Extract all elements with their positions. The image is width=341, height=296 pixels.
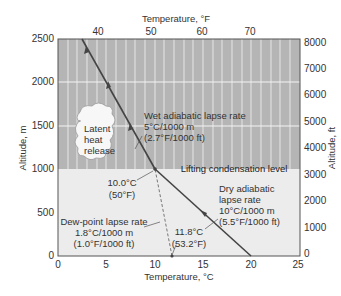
svg-text:70: 70 xyxy=(244,26,256,37)
svg-text:0: 0 xyxy=(304,248,310,259)
svg-text:1000: 1000 xyxy=(304,222,327,233)
svg-text:4000: 4000 xyxy=(304,142,327,153)
svg-text:0: 0 xyxy=(48,250,54,261)
svg-text:1.8°C/1000 m: 1.8°C/1000 m xyxy=(75,227,133,238)
svg-text:60: 60 xyxy=(196,26,208,37)
y-axis-label: Altitude, m xyxy=(17,125,28,170)
svg-text:(50°F): (50°F) xyxy=(109,189,136,200)
svg-text:11.8°C: 11.8°C xyxy=(175,226,204,237)
svg-text:1500: 1500 xyxy=(32,120,55,131)
svg-text:5°C/1000 m: 5°C/1000 m xyxy=(144,121,194,132)
svg-text:heat: heat xyxy=(84,134,103,145)
svg-text:20: 20 xyxy=(245,259,257,270)
dew-surface-label: 11.8°C (53.2°F) xyxy=(172,226,206,249)
svg-text:2000: 2000 xyxy=(32,76,55,87)
svg-text:release: release xyxy=(84,145,115,156)
x-axis-bottom: 0 5 10 15 20 25 xyxy=(55,259,304,270)
svg-text:40: 40 xyxy=(92,26,104,37)
svg-text:2000: 2000 xyxy=(304,195,327,206)
lcl-label: Lifting condensation level xyxy=(181,163,288,174)
x-axis-top: 40 50 60 70 xyxy=(92,26,256,37)
svg-text:Dew-point lapse rate: Dew-point lapse rate xyxy=(60,216,147,227)
svg-text:2500: 2500 xyxy=(32,33,55,44)
svg-text:(1.0°F/1000 ft): (1.0°F/1000 ft) xyxy=(74,238,135,249)
svg-text:Dry adiabatic: Dry adiabatic xyxy=(219,183,275,194)
svg-text:10: 10 xyxy=(149,259,161,270)
x2-axis-label: Temperature, °F xyxy=(142,13,210,24)
svg-text:8000: 8000 xyxy=(304,37,327,48)
svg-text:15: 15 xyxy=(197,259,209,270)
svg-text:5: 5 xyxy=(103,259,109,270)
svg-text:(53.2°F): (53.2°F) xyxy=(172,238,206,249)
svg-text:500: 500 xyxy=(37,207,54,218)
svg-text:1000: 1000 xyxy=(32,163,55,174)
y-axis-left: 0 500 1000 1500 2000 2500 xyxy=(32,33,55,261)
svg-text:3000: 3000 xyxy=(304,169,327,180)
svg-text:25: 25 xyxy=(292,259,304,270)
svg-text:Wet adiabatic lapse rate: Wet adiabatic lapse rate xyxy=(144,110,246,121)
svg-text:5000: 5000 xyxy=(304,116,327,127)
svg-text:0: 0 xyxy=(55,259,61,270)
svg-text:6000: 6000 xyxy=(304,89,327,100)
svg-text:(2.7°F/1000 ft): (2.7°F/1000 ft) xyxy=(144,132,205,143)
svg-text:Latent: Latent xyxy=(84,123,111,134)
svg-text:(5.5°F/1000 ft): (5.5°F/1000 ft) xyxy=(219,216,280,227)
svg-text:lapse rate: lapse rate xyxy=(219,194,261,205)
lapse-rate-chart: 0 500 1000 1500 2000 2500 Altitude, m 0 … xyxy=(0,0,341,296)
y-axis-right: 0 1000 2000 3000 4000 5000 6000 7000 800… xyxy=(304,37,327,259)
svg-text:10°C/1000 m: 10°C/1000 m xyxy=(219,205,275,216)
dry-label: Dry adiabatic lapse rate 10°C/1000 m (5.… xyxy=(219,183,280,227)
y2-axis-label: Altitude, ft xyxy=(326,127,337,170)
lcl-point-label: 10.0°C (50°F) xyxy=(107,177,136,200)
svg-text:50: 50 xyxy=(145,26,157,37)
svg-text:7000: 7000 xyxy=(304,63,327,74)
svg-text:10.0°C: 10.0°C xyxy=(107,177,136,188)
x-axis-label: Temperature, °C xyxy=(144,271,213,282)
